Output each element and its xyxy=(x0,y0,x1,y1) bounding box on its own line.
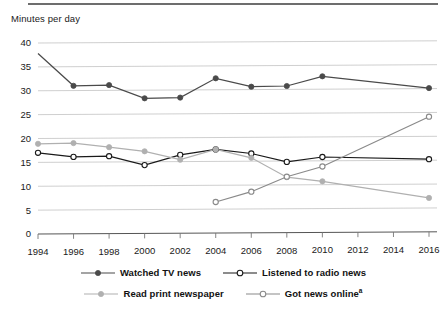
legend-item[interactable]: Read print newspaper xyxy=(84,288,223,299)
y-axis-tick-label: 25 xyxy=(20,109,31,120)
gridline xyxy=(38,160,437,162)
x-axis-tick-label: 1994 xyxy=(27,246,48,257)
x-axis-tick-label: 2016 xyxy=(418,244,439,255)
data-point-marker xyxy=(142,149,147,154)
gridline xyxy=(38,184,437,186)
data-point-marker xyxy=(107,145,112,150)
data-point-marker xyxy=(426,114,431,119)
data-point-marker xyxy=(249,189,254,194)
data-point-marker xyxy=(71,141,76,146)
y-axis-tick-label: 10 xyxy=(20,181,31,192)
data-point-marker xyxy=(320,164,325,169)
gridline xyxy=(38,89,437,91)
chart-legend: Watched TV newsListened to radio newsRea… xyxy=(0,262,447,304)
series-line xyxy=(38,149,429,165)
data-point-marker xyxy=(284,159,289,164)
data-point-marker xyxy=(178,95,183,100)
y-axis-tick-label: 35 xyxy=(20,61,31,72)
data-point-marker xyxy=(213,199,218,204)
legend-marker-icon xyxy=(81,268,115,278)
data-point-marker xyxy=(35,150,40,155)
data-point-marker xyxy=(284,174,289,179)
y-axis-tick-label: 0 xyxy=(26,228,31,239)
x-axis-tick-labels: 1994199619982000200220042006200820102012… xyxy=(27,244,439,257)
legend-marker-icon xyxy=(223,268,257,278)
legend-item-label: Read print newspaper xyxy=(123,288,223,299)
x-axis-tick-label: 2012 xyxy=(347,244,368,255)
x-axis-tick-label: 2006 xyxy=(241,245,262,256)
data-point-marker xyxy=(35,141,40,146)
series-lines xyxy=(38,54,429,203)
data-point-marker xyxy=(320,179,325,184)
legend-footnote-marker: a xyxy=(359,287,363,294)
data-point-marker xyxy=(142,96,147,101)
data-point-marker xyxy=(213,76,218,81)
legend-item[interactable]: Got news onlinea xyxy=(246,287,363,299)
x-axis-tick-label: 1998 xyxy=(99,246,120,257)
data-point-marker xyxy=(71,83,76,88)
data-point-marker xyxy=(426,157,431,162)
y-axis-tick-label: 30 xyxy=(20,85,31,96)
legend-item-label: Watched TV news xyxy=(120,267,201,278)
data-point-marker xyxy=(107,83,112,88)
x-axis-tick-label: 2010 xyxy=(312,244,333,255)
x-axis-tick-label: 2004 xyxy=(205,245,226,256)
data-point-marker xyxy=(71,154,76,159)
legend-row: Watched TV newsListened to radio news xyxy=(0,262,447,283)
legend-item[interactable]: Listened to radio news xyxy=(223,267,366,278)
data-point-marker xyxy=(426,86,431,91)
gridlines xyxy=(38,41,437,234)
x-axis-tick-label: 2002 xyxy=(170,245,191,256)
x-axis-tick-label: 1996 xyxy=(63,246,84,257)
data-point-marker xyxy=(249,155,254,160)
y-axis-tick-labels: 0510152025303540 xyxy=(20,37,31,239)
y-axis-tick-label: 5 xyxy=(26,205,31,216)
y-axis-tick-label: 40 xyxy=(20,37,31,48)
legend-item[interactable]: Watched TV news xyxy=(81,267,201,278)
gridline xyxy=(38,41,437,43)
x-axis-tick-label: 2008 xyxy=(276,245,297,256)
legend-marker-icon xyxy=(246,289,280,299)
line-chart-plot: 0510152025303540 19941996199820002002200… xyxy=(0,0,447,262)
data-point-marker xyxy=(249,84,254,89)
series-line xyxy=(38,54,429,99)
x-axis-tick-label: 2014 xyxy=(383,244,404,255)
data-point-marker xyxy=(107,154,112,159)
data-point-marker xyxy=(320,154,325,159)
legend-marker-icon xyxy=(84,289,118,299)
legend-item-label: Got news onlinea xyxy=(285,287,363,299)
gridline xyxy=(38,136,437,138)
data-point-marker xyxy=(284,83,289,88)
gridline xyxy=(38,232,437,234)
gridline xyxy=(38,65,437,67)
chart-figure: Minutes per day 0510152025303540 1994199… xyxy=(0,0,447,319)
data-point-marker xyxy=(178,157,183,162)
data-point-marker xyxy=(426,195,431,200)
x-axis-tick-label: 2000 xyxy=(134,245,155,256)
legend-row: Read print newspaperGot news onlinea xyxy=(0,283,447,304)
y-axis-tick-label: 15 xyxy=(20,157,31,168)
data-point-marker xyxy=(142,163,147,168)
legend-item-label: Listened to radio news xyxy=(262,267,366,278)
gridline xyxy=(38,208,437,210)
data-point-marker xyxy=(320,74,325,79)
gridline xyxy=(38,112,437,114)
data-point-marker xyxy=(213,147,218,152)
y-axis-tick-label: 20 xyxy=(20,133,31,144)
